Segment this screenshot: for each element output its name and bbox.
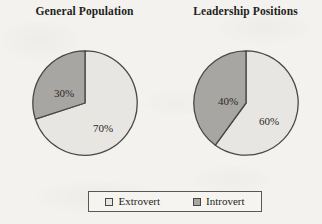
legend-label-extrovert: Extrovert: [118, 196, 160, 207]
legend-item-introvert[interactable]: Introvert: [193, 196, 244, 207]
pie-right: 40% 60%: [192, 49, 300, 157]
pie-right-svg: 40% 60%: [192, 49, 300, 157]
pie-label-extrovert-right: 60%: [258, 115, 278, 127]
pie-chart-figure: General Population 30% 70% Leadership Po…: [0, 0, 322, 224]
chart-leadership-positions: Leadership Positions 40% 60%: [165, 0, 322, 180]
pie-left: 30% 70%: [31, 49, 139, 157]
chart-legend: Extrovert Introvert: [88, 191, 262, 212]
pie-label-introvert-left: 30%: [53, 87, 73, 99]
pie-left-svg: 30% 70%: [31, 49, 139, 157]
chart-title-left: General Population: [4, 5, 165, 17]
pie-label-extrovert-left: 70%: [92, 122, 112, 134]
chart-title-right: Leadership Positions: [165, 5, 322, 17]
legend-label-introvert: Introvert: [206, 196, 244, 207]
legend-item-extrovert[interactable]: Extrovert: [105, 196, 160, 207]
square-swatch-icon-introvert: [193, 198, 201, 206]
pie-label-introvert-right: 40%: [217, 95, 237, 107]
chart-general-population: General Population 30% 70%: [4, 0, 165, 180]
square-swatch-icon-extrovert: [105, 198, 113, 206]
